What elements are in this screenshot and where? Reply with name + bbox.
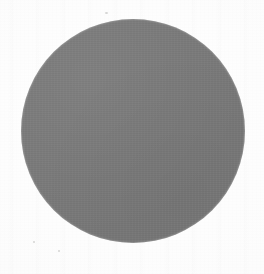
- gray-circle-shape: [21, 19, 245, 243]
- scan-speck-bottom-left: [33, 241, 35, 243]
- scan-speck-bottom-center: [58, 250, 60, 252]
- scan-speck-top-center: [105, 12, 108, 14]
- disc-edge-antialias: [21, 19, 245, 243]
- figure-canvas: [0, 0, 264, 274]
